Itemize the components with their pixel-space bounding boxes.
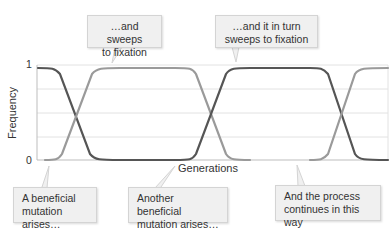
curve-allele-1 [38,68,175,160]
callout-pointer [232,47,239,62]
curve-allele-3 [175,68,388,160]
curve-allele-4 [310,68,388,160]
y-axis-label: Frequency [6,87,18,139]
callout-another-mutation: Another beneficial mutation arises… [128,187,228,223]
callout-in-turn-sweeps: …and it in turn sweeps to fixation [215,15,318,48]
callout-sweeps-to-fixation: …and sweeps to fixation [87,15,162,48]
y-tick-0: 0 [26,154,32,166]
callout-beneficial-mutation: A beneficial mutation arises… [13,187,97,223]
y-tick-1: 1 [26,58,32,70]
callout-pointer [297,165,305,186]
callout-process-continues: And the process continues in this way [275,185,381,221]
x-axis-label: Generations [178,162,238,174]
